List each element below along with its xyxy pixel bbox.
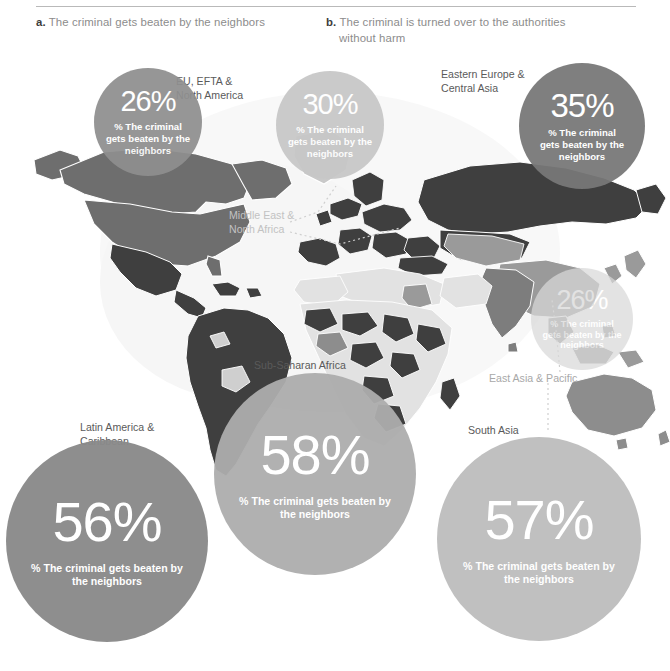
region-label-east-asia-pacific: East Asia & Pacific bbox=[489, 371, 577, 385]
bubble-caption-latin-america-caribbean: % The criminal gets beaten by the neighb… bbox=[22, 562, 192, 588]
bubble-eu-efta-north-america[interactable]: 26% % The criminal gets beaten by the ne… bbox=[94, 68, 202, 176]
infographic-root: a. The criminal gets beaten by the neigh… bbox=[0, 0, 670, 671]
bubble-middle-east-north-africa[interactable]: 30% % The criminal gets beaten by the ne… bbox=[276, 71, 384, 179]
connector-mena-2 bbox=[290, 228, 400, 244]
bubble-value-eastern-europe-central-asia: 35% bbox=[550, 89, 613, 122]
bubble-eastern-europe-central-asia[interactable]: 35% % The criminal gets beaten by the ne… bbox=[519, 63, 645, 189]
region-label-middle-east-north-africa: Middle East & North Africa bbox=[229, 208, 294, 236]
bubble-value-latin-america-caribbean: 56% bbox=[52, 494, 161, 550]
connector-mena bbox=[290, 186, 336, 222]
bubble-caption-south-asia: % The criminal gets beaten by the neighb… bbox=[454, 560, 624, 586]
bubble-caption-middle-east-north-africa: % The criminal gets beaten by the neighb… bbox=[287, 124, 373, 159]
bubble-east-asia-pacific[interactable]: 26% % The criminal gets beaten by the ne… bbox=[531, 268, 633, 370]
bubble-south-asia[interactable]: 57% % The criminal gets beaten by the ne… bbox=[437, 437, 641, 641]
bubble-value-eu-efta-north-america: 26% bbox=[120, 87, 175, 116]
bubble-caption-eastern-europe-central-asia: % The criminal gets beaten by the neighb… bbox=[539, 127, 625, 162]
bubble-value-east-asia-pacific: 26% bbox=[556, 287, 607, 314]
region-label-eastern-europe-central-asia: Eastern Europe & Central Asia bbox=[441, 67, 525, 95]
bubble-caption-sub-saharan-africa: % The criminal gets beaten by the neighb… bbox=[230, 495, 400, 521]
bubble-value-sub-saharan-africa: 58% bbox=[260, 427, 369, 483]
region-label-sub-saharan-africa: Sub-Saharan Africa bbox=[254, 358, 346, 372]
bubble-value-middle-east-north-africa: 30% bbox=[302, 90, 357, 119]
bubble-sub-saharan-africa[interactable]: 58% % The criminal gets beaten by the ne… bbox=[214, 373, 416, 575]
bubble-value-south-asia: 57% bbox=[484, 492, 593, 548]
bubble-latin-america-caribbean[interactable]: 56% % The criminal gets beaten by the ne… bbox=[6, 440, 208, 642]
bubble-caption-east-asia-pacific: % The criminal gets beaten by the neighb… bbox=[542, 319, 622, 352]
bubble-caption-eu-efta-north-america: % The criminal gets beaten by the neighb… bbox=[105, 121, 191, 156]
region-label-south-asia: South Asia bbox=[468, 423, 519, 437]
